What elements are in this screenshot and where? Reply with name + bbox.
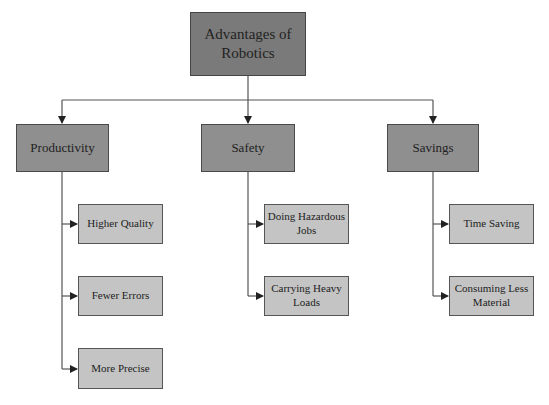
root-label-line2: Robotics — [204, 44, 291, 63]
branch-safety: Safety — [201, 124, 295, 172]
leaf-label: More Precise — [91, 362, 149, 376]
leaf-higher-quality: Higher Quality — [78, 204, 163, 244]
leaf-label-line1: Consuming Less — [455, 282, 529, 296]
root-label-line1: Advantages of — [204, 25, 291, 44]
leaf-time-saving: Time Saving — [449, 204, 534, 244]
leaf-label: Higher Quality — [87, 217, 153, 231]
leaf-label-line2: Material — [455, 296, 529, 310]
branch-savings: Savings — [387, 124, 479, 172]
branch-label: Safety — [231, 140, 264, 156]
leaf-more-precise: More Precise — [78, 348, 163, 389]
leaf-label-line2: Jobs — [268, 224, 345, 238]
leaf-label: Time Saving — [463, 217, 519, 231]
branch-label: Savings — [412, 140, 453, 156]
leaf-fewer-errors: Fewer Errors — [78, 276, 163, 316]
leaf-carrying-heavy-loads: Carrying Heavy Loads — [264, 276, 349, 316]
leaf-consuming-less-material: Consuming Less Material — [449, 276, 534, 316]
leaf-doing-hazardous-jobs: Doing Hazardous Jobs — [264, 204, 349, 244]
leaf-label: Fewer Errors — [92, 289, 150, 303]
leaf-label-line1: Doing Hazardous — [268, 210, 345, 224]
leaf-label-line2: Loads — [271, 296, 342, 310]
leaf-label-line1: Carrying Heavy — [271, 282, 342, 296]
branch-label: Productivity — [30, 140, 94, 156]
branch-productivity: Productivity — [16, 124, 109, 172]
root-node: Advantages of Robotics — [190, 12, 306, 76]
